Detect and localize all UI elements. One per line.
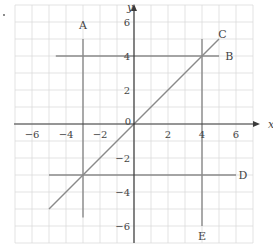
x-tick-label: −6 bbox=[25, 129, 40, 140]
y-tick-label: 6 bbox=[124, 17, 130, 28]
x-tick-label: −2 bbox=[93, 129, 108, 140]
y-axis-label: y bbox=[126, 1, 134, 14]
x-axis-label: x bbox=[268, 118, 273, 131]
coordinate-plane-figure: ABCDE x y 0 −6−4−2246642−2−4−6 bbox=[0, 0, 273, 251]
y-tick-label: 2 bbox=[124, 85, 130, 96]
y-tick-label: −2 bbox=[115, 153, 130, 164]
line-label-d: D bbox=[238, 169, 247, 182]
line-label-e: E bbox=[198, 230, 206, 243]
origin-label: 0 bbox=[125, 116, 131, 127]
coordinate-plane-svg: ABCDE x y 0 −6−4−2246642−2−4−6 bbox=[0, 0, 273, 251]
line-label-b: B bbox=[225, 50, 233, 63]
axes: x y 0 bbox=[14, 1, 273, 243]
y-tick-label: −6 bbox=[115, 221, 130, 232]
line-label-c: C bbox=[218, 28, 226, 41]
line-label-a: A bbox=[78, 19, 88, 32]
x-tick-label: 4 bbox=[199, 129, 205, 140]
y-tick-label: −4 bbox=[115, 187, 130, 198]
x-axis-arrow-icon bbox=[253, 121, 260, 127]
labelled-lines: ABCDE bbox=[49, 19, 247, 243]
x-tick-label: 6 bbox=[233, 129, 239, 140]
x-tick-label: −4 bbox=[59, 129, 74, 140]
x-tick-label: 2 bbox=[165, 129, 171, 140]
stray-dot bbox=[3, 14, 5, 16]
y-tick-label: 4 bbox=[124, 51, 130, 62]
